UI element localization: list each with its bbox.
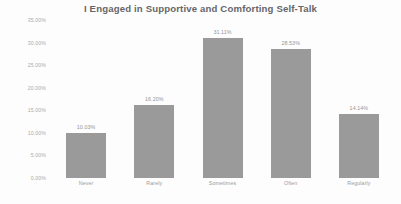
- bar-value-label: 28.53%: [257, 40, 325, 46]
- x-axis-tick: Rarely: [120, 180, 188, 186]
- plot-area: 10.03%16.20%31.11%28.53%14.14%: [52, 20, 393, 178]
- bar-value-label: 14.14%: [325, 105, 393, 111]
- bar-value-label: 31.11%: [189, 29, 257, 35]
- bar-value-label: 10.03%: [52, 124, 120, 130]
- bar: [203, 38, 243, 178]
- bar-group: 28.53%: [271, 20, 311, 178]
- x-axis-tick: Regularly: [325, 180, 393, 186]
- bar: [134, 105, 174, 178]
- y-axis-tick: 15.00%: [0, 107, 46, 113]
- bar-chart: I Engaged in Supportive and Comforting S…: [0, 0, 401, 204]
- y-axis: 0.00%5.00%10.00%15.00%20.00%25.00%30.00%…: [0, 20, 46, 178]
- x-axis-tick: Often: [257, 180, 325, 186]
- bar-group: 14.14%: [339, 20, 379, 178]
- bar: [339, 114, 379, 178]
- chart-title: I Engaged in Supportive and Comforting S…: [0, 3, 401, 14]
- y-axis-tick: 30.00%: [0, 40, 46, 46]
- bar: [66, 133, 106, 178]
- bar-value-label: 16.20%: [120, 96, 188, 102]
- y-axis-tick: 20.00%: [0, 85, 46, 91]
- clipped-footer-text: [0, 197, 401, 204]
- x-axis: NeverRarelySometimesOftenRegularly: [52, 180, 393, 192]
- y-axis-tick: 10.00%: [0, 130, 46, 136]
- y-axis-tick: 35.00%: [0, 17, 46, 23]
- bar-group: 10.03%: [66, 20, 106, 178]
- y-axis-tick: 5.00%: [0, 152, 46, 158]
- bar-group: 31.11%: [203, 20, 243, 178]
- bar: [271, 49, 311, 178]
- bar-group: 16.20%: [134, 20, 174, 178]
- x-axis-tick: Never: [52, 180, 120, 186]
- y-axis-tick: 25.00%: [0, 62, 46, 68]
- x-axis-tick: Sometimes: [188, 180, 256, 186]
- y-axis-tick: 0.00%: [0, 175, 46, 181]
